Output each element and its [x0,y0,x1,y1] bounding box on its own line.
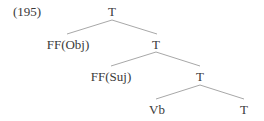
node-t2: T [152,38,160,51]
edge-t1-t2 [112,20,157,34]
edge-t1-ffobj [67,20,112,34]
node-t4: T [240,103,248,116]
edge-t3-t4 [200,85,244,99]
node-t1: T [108,5,116,18]
node-ff-obj: FF(Obj) [47,38,90,51]
edge-t2-ffsuj [111,52,156,66]
node-t3: T [196,70,204,83]
node-vb: Vb [149,103,165,116]
edge-t3-vb [156,85,200,99]
edge-t2-t3 [156,52,200,66]
tree-edges [0,0,264,121]
node-ff-suj: FF(Suj) [91,70,131,83]
